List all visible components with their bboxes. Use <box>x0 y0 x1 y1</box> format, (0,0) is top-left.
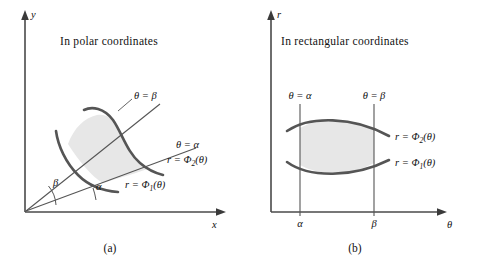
x-axis-arrowhead <box>216 208 226 216</box>
y-axis-label: y <box>30 9 36 20</box>
label-r-phi2-suffix: (θ) <box>423 131 436 143</box>
svg-text:r = Φ2(θ): r = Φ2(θ) <box>167 154 208 168</box>
label-r-phi1: r = Φ1(θ) <box>395 157 436 171</box>
label-r-phi1-suffix: (θ) <box>153 179 166 191</box>
label-theta-beta: θ = β <box>363 90 386 101</box>
tick-label-alpha: α <box>297 218 303 229</box>
label-theta-alpha: θ = α <box>288 90 311 101</box>
theta-axis <box>271 208 447 216</box>
svg-text:r = Φ1(θ): r = Φ1(θ) <box>125 179 166 193</box>
panel-a-caption: (a) <box>104 242 117 255</box>
theta-axis-label: θ <box>447 219 452 230</box>
polar-region-fill <box>68 115 151 183</box>
label-r-phi2: r = Φ2(θ) <box>167 154 208 168</box>
x-axis-label: x <box>211 219 217 230</box>
r-axis <box>267 10 275 212</box>
label-r-phi1-suffix: (θ) <box>423 157 436 169</box>
theta-axis-arrowhead <box>437 208 447 216</box>
rect-region-fill <box>300 120 374 173</box>
tick-label-beta: β <box>370 218 377 229</box>
r-axis-label: r <box>277 9 282 20</box>
leader-theta-beta <box>118 99 132 111</box>
angle-label-beta: β <box>52 177 59 188</box>
panel-b-heading: In rectangular coordinates <box>281 35 409 48</box>
panel-b-caption: (b) <box>348 242 362 255</box>
svg-text:r = Φ1(θ): r = Φ1(θ) <box>395 157 436 171</box>
y-axis-arrowhead <box>21 10 29 20</box>
panel-rectangular-coordinates: r θ θ = α θ = β r = Φ2(θ) r = Φ1(θ) <box>243 0 486 265</box>
label-r-phi2-prefix: r = Φ <box>395 131 419 142</box>
label-r-phi2-suffix: (θ) <box>195 154 208 166</box>
panel-a-heading: In polar coordinates <box>60 35 158 48</box>
label-theta-alpha: θ = α <box>176 139 199 150</box>
label-r-phi1-prefix: r = Φ <box>125 179 149 190</box>
svg-text:r = Φ2(θ): r = Φ2(θ) <box>395 131 436 145</box>
r-axis-arrowhead <box>267 10 275 20</box>
figure-root: y x β α θ = β θ = α r = Φ2(θ) <box>0 0 486 265</box>
panel-polar-coordinates: y x β α θ = β θ = α r = Φ2(θ) <box>0 0 243 265</box>
y-axis <box>21 10 29 212</box>
label-r-phi1-prefix: r = Φ <box>395 157 419 168</box>
label-r-phi2-prefix: r = Φ <box>167 154 191 165</box>
x-axis <box>25 208 226 216</box>
label-r-phi2: r = Φ2(θ) <box>395 131 436 145</box>
angle-label-alpha: α <box>96 181 102 192</box>
label-r-phi1: r = Φ1(θ) <box>125 179 166 193</box>
label-theta-beta: θ = β <box>134 90 157 101</box>
